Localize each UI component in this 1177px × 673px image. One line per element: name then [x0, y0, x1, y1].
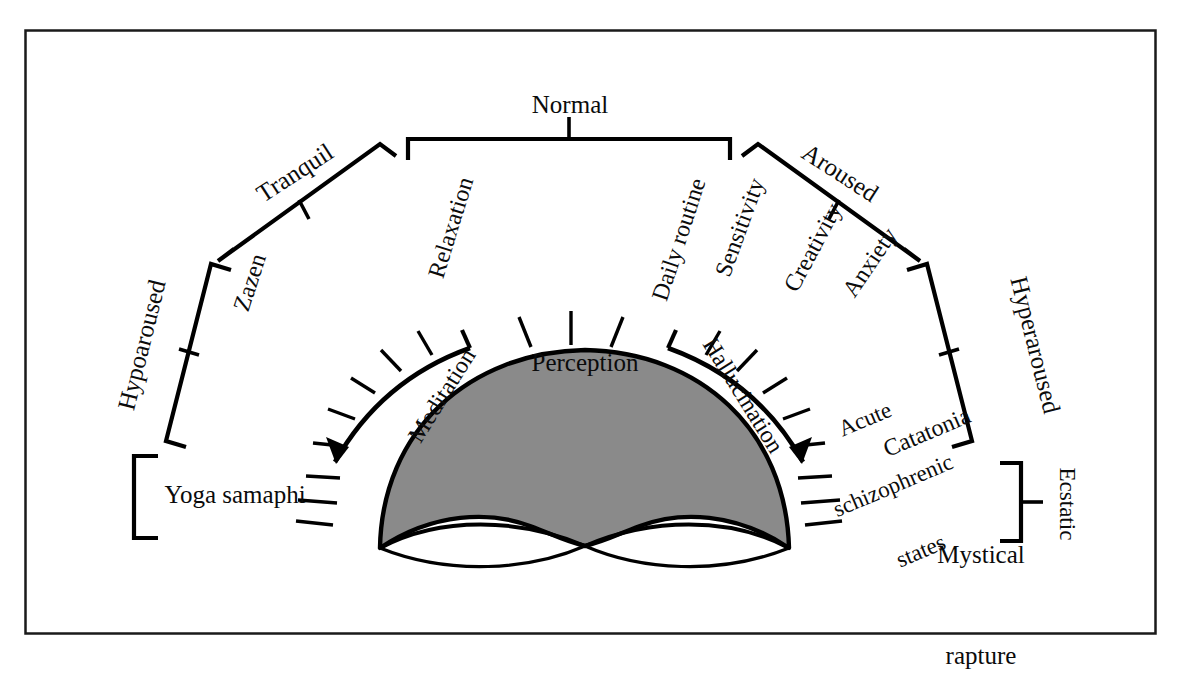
bracket-label-ecstatic: Ecstatic — [1055, 439, 1079, 569]
bracket-label-normal: Normal — [500, 92, 640, 118]
mystical-line-2: rapture — [906, 639, 1056, 673]
state-label-mystical-rapture: Mystical rapture — [906, 470, 1056, 673]
mystical-line-1: Mystical — [906, 538, 1056, 572]
center-label-perception: Perception — [500, 350, 670, 376]
state-label-yoga-samaphi: Yoga samaphi — [140, 482, 330, 508]
